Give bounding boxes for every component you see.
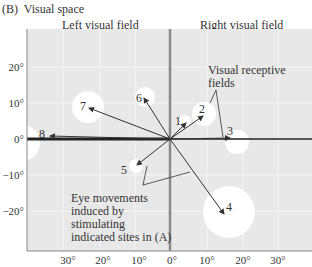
svg-text:0°: 0° [167,254,177,266]
svg-text:10°: 10° [131,254,146,266]
site-label-5: 5 [121,163,127,177]
svg-text:Visual receptive: Visual receptive [208,63,286,77]
svg-text:0°: 0° [14,133,24,145]
site-label-7: 7 [80,99,86,113]
svg-text:−10°: −10° [2,169,24,181]
svg-text:20°: 20° [9,61,24,73]
svg-text:30°: 30° [60,254,75,266]
svg-text:20°: 20° [95,254,110,266]
svg-text:fields: fields [208,76,235,90]
receptive-field-7 [72,91,104,123]
site-label-4: 4 [226,200,232,214]
svg-text:30°: 30° [270,254,285,266]
svg-text:stimulating: stimulating [71,217,125,231]
x-tick-labels: 30° 20° 10° 0° 10° 20° 30° [60,254,285,266]
svg-text:indicated sites in (A): indicated sites in (A) [71,230,171,244]
svg-text:induced by: induced by [71,204,124,218]
svg-text:10°: 10° [199,254,214,266]
visual-space-diagram: 1 2 3 4 5 6 7 8 Visual receptive fields … [0,0,312,267]
svg-text:Eye movements: Eye movements [71,191,148,205]
svg-text:10°: 10° [9,97,24,109]
site-label-6: 6 [136,91,142,105]
svg-text:−20°: −20° [2,205,24,217]
svg-text:20°: 20° [235,254,250,266]
site-label-8: 8 [39,127,45,141]
receptive-field-5 [129,159,143,173]
site-label-1: 1 [175,114,181,128]
site-label-2: 2 [199,102,205,116]
site-label-3: 3 [227,124,233,138]
